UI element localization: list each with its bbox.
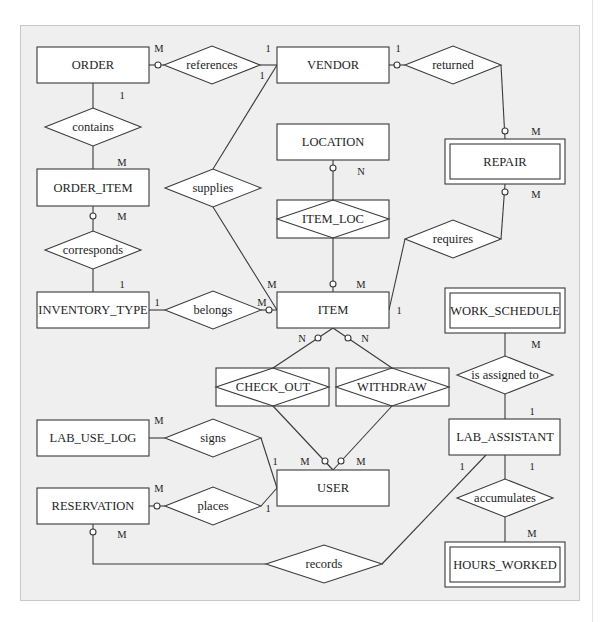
cardinality: M bbox=[267, 279, 277, 290]
entity-label: LOCATION bbox=[302, 135, 365, 149]
relationship-supplies[interactable]: supplies bbox=[165, 169, 261, 207]
relationship-label: is assigned to bbox=[471, 368, 538, 382]
cardinality: M bbox=[117, 529, 127, 540]
cardinality: N bbox=[361, 333, 369, 344]
entity-label: USER bbox=[317, 481, 350, 495]
relationship-label: signs bbox=[200, 431, 226, 445]
relationship-references[interactable]: references bbox=[164, 46, 260, 84]
cardinality: M bbox=[154, 483, 164, 494]
relationship-requires[interactable]: requires bbox=[405, 220, 501, 258]
weak-entity-work-schedule[interactable]: WORK_SCHEDULE bbox=[445, 288, 565, 333]
cardinality: M bbox=[531, 126, 541, 137]
entity-inventory-type[interactable]: INVENTORY_TYPE bbox=[37, 292, 149, 328]
cardinality: N bbox=[298, 333, 306, 344]
relationship-label: requires bbox=[433, 232, 473, 246]
cardinality: 1 bbox=[395, 43, 400, 54]
relationship-label: ITEM_LOC bbox=[302, 212, 364, 226]
relationship-label: CHECK_OUT bbox=[236, 380, 311, 394]
entity-label: LAB_USE_LOG bbox=[50, 431, 137, 445]
relationship-corresponds[interactable]: corresponds bbox=[45, 231, 141, 269]
cardinality: M bbox=[527, 528, 537, 539]
entity-label: ORDER_ITEM bbox=[53, 181, 132, 195]
cardinality: 1 bbox=[154, 297, 159, 308]
cardinality: 1 bbox=[119, 279, 124, 290]
cardinality: M bbox=[117, 157, 127, 168]
cardinality: M bbox=[257, 297, 267, 308]
entity-label: RESERVATION bbox=[52, 499, 135, 513]
cardinality: 1 bbox=[119, 90, 124, 101]
entity-order-item[interactable]: ORDER_ITEM bbox=[37, 169, 149, 206]
relationship-label: supplies bbox=[193, 181, 234, 195]
associative-entity-check-out[interactable]: CHECK_OUT bbox=[216, 368, 329, 406]
relationship-label: records bbox=[306, 557, 343, 571]
cardinality: 1 bbox=[272, 456, 277, 467]
cardinality: 1 bbox=[265, 503, 270, 514]
relationship-label: corresponds bbox=[63, 243, 124, 257]
cardinality: M bbox=[300, 456, 310, 467]
entity-item[interactable]: ITEM bbox=[277, 292, 389, 328]
relationship-belongs[interactable]: belongs bbox=[165, 291, 261, 329]
relationship-label: places bbox=[197, 499, 228, 513]
cardinality: 1 bbox=[396, 305, 401, 316]
weak-entity-repair[interactable]: REPAIR bbox=[445, 139, 565, 184]
cardinality: M bbox=[356, 456, 366, 467]
relationship-label: references bbox=[186, 58, 237, 72]
cardinality: 1 bbox=[259, 70, 264, 81]
cardinality: M bbox=[154, 415, 164, 426]
relationship-signs[interactable]: signs bbox=[165, 419, 261, 457]
entity-order[interactable]: ORDER bbox=[37, 47, 149, 83]
entity-lab-use-log[interactable]: LAB_USE_LOG bbox=[37, 420, 149, 456]
relationship-returned[interactable]: returned bbox=[405, 46, 501, 84]
entity-lab-assistant[interactable]: LAB_ASSISTANT bbox=[449, 419, 560, 455]
entity-label: ITEM bbox=[318, 303, 349, 317]
entity-label: VENDOR bbox=[307, 58, 360, 72]
cardinality: 1 bbox=[459, 461, 464, 472]
relationship-label: accumulates bbox=[474, 491, 536, 505]
associative-entity-item-loc[interactable]: ITEM_LOC bbox=[277, 200, 389, 238]
relationship-label: WITHDRAW bbox=[357, 380, 427, 394]
entity-label: REPAIR bbox=[483, 155, 527, 169]
relationship-accumulates[interactable]: accumulates bbox=[457, 479, 553, 517]
entity-label: ORDER bbox=[72, 58, 115, 72]
entity-label: WORK_SCHEDULE bbox=[450, 304, 560, 318]
cardinality: 1 bbox=[529, 406, 534, 417]
entity-vendor[interactable]: VENDOR bbox=[277, 47, 389, 83]
relationship-label: contains bbox=[72, 120, 114, 134]
entity-label: INVENTORY_TYPE bbox=[38, 303, 148, 317]
cardinality: M bbox=[117, 211, 127, 222]
weak-entity-hours-worked[interactable]: HOURS_WORKED bbox=[445, 542, 565, 587]
cardinality: 1 bbox=[265, 43, 270, 54]
associative-entity-withdraw[interactable]: WITHDRAW bbox=[336, 368, 449, 406]
er-diagram: ORDER VENDOR LOCATION REPAIR ORDER_ITEM … bbox=[0, 0, 601, 622]
cardinality: 1 bbox=[529, 461, 534, 472]
cardinality: M bbox=[531, 339, 541, 350]
relationship-is-assigned-to[interactable]: is assigned to bbox=[457, 356, 553, 394]
cardinality: M bbox=[154, 43, 164, 54]
relationship-records[interactable]: records bbox=[266, 545, 382, 583]
entity-label: HOURS_WORKED bbox=[453, 558, 556, 572]
entity-location[interactable]: LOCATION bbox=[277, 124, 389, 160]
relationship-places[interactable]: places bbox=[165, 487, 261, 525]
relationship-label: belongs bbox=[194, 303, 233, 317]
entity-label: LAB_ASSISTANT bbox=[456, 430, 554, 444]
entity-reservation[interactable]: RESERVATION bbox=[37, 488, 149, 524]
cardinality: M bbox=[356, 279, 366, 290]
relationship-contains[interactable]: contains bbox=[45, 108, 141, 146]
entity-user[interactable]: USER bbox=[277, 470, 389, 506]
cardinality: M bbox=[531, 189, 541, 200]
relationship-label: returned bbox=[432, 58, 474, 72]
cardinality: N bbox=[357, 166, 365, 177]
